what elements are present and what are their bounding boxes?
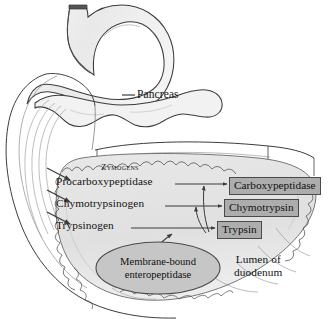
enteropeptidase-label: Membrane-bound enteropeptidase: [96, 256, 220, 281]
enteropeptidase-label-line2: enteropeptidase: [96, 269, 220, 282]
lumen-label-line2: duodenum: [234, 266, 283, 279]
zymogen-chymotrypsinogen: Chymotrypsinogen: [56, 198, 144, 210]
enzyme-box-carboxypeptidase: Carboxypeptidase: [229, 177, 321, 195]
lumen-of-duodenum-label: Lumen of duodenum: [234, 253, 283, 279]
esophagus-cap: [69, 5, 87, 9]
pancreas-duodenum-diagram: Pancreas Zymogens Procarboxypeptidase Ch…: [0, 0, 328, 319]
enzyme-box-chymotrypsin: Chymotrypsin: [224, 199, 299, 217]
lumen-label-line1: Lumen of: [234, 253, 283, 266]
pancreas-label: Pancreas: [137, 88, 179, 100]
enzyme-box-trypsin: Trypsin: [217, 221, 262, 239]
enteropeptidase-label-line1: Membrane-bound: [96, 256, 220, 269]
zymogen-procarboxypeptidase: Procarboxypeptidase: [56, 176, 153, 188]
zymogens-heading: Zymogens: [101, 163, 139, 172]
zymogen-trypsinogen: Trypsinogen: [56, 220, 114, 232]
